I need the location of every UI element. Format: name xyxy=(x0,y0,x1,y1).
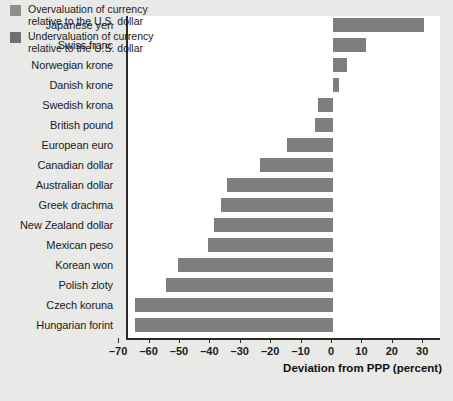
x-axis-tick xyxy=(301,338,302,343)
bar xyxy=(227,178,333,192)
bar xyxy=(221,198,333,212)
legend-label-line1: Undervaluation of currency xyxy=(28,31,153,43)
x-axis-tick-label: –40 xyxy=(194,345,224,357)
x-axis-tick-label: –70 xyxy=(103,345,133,357)
bar xyxy=(333,78,339,92)
legend-swatch-icon xyxy=(10,32,21,43)
legend-label: Overvaluation of currencyrelative to the… xyxy=(28,4,148,27)
legend-label-line1: Overvaluation of currency xyxy=(28,4,148,16)
category-label: Canadian dollar xyxy=(37,159,113,171)
x-axis-tick-label: 30 xyxy=(407,345,437,357)
x-axis-tick-label: –30 xyxy=(225,345,255,357)
category-label: Norwegian krone xyxy=(31,59,113,71)
x-axis-tick-label: 20 xyxy=(377,345,407,357)
x-axis-tick xyxy=(392,338,393,343)
category-label: Mexican peso xyxy=(46,239,113,251)
bar xyxy=(135,318,333,332)
bar xyxy=(178,258,333,272)
legend-item: Undervaluation of currencyrelative to th… xyxy=(10,31,200,54)
bars-container xyxy=(128,16,440,338)
category-label: New Zealand dollar xyxy=(20,219,113,231)
x-axis-tick-label: 10 xyxy=(346,345,376,357)
category-label: European euro xyxy=(42,139,113,151)
category-label: Greek drachma xyxy=(38,199,113,211)
category-label: Danish krone xyxy=(49,79,113,91)
chart-figure: Japanese yenSwiss francNorwegian kroneDa… xyxy=(0,0,453,401)
legend-label: Undervaluation of currencyrelative to th… xyxy=(28,31,153,54)
x-axis-line xyxy=(126,338,440,340)
bar xyxy=(135,298,333,312)
bar xyxy=(333,58,347,72)
bar xyxy=(260,158,333,172)
category-label: Swedish krona xyxy=(42,99,113,111)
category-label: Polish zloty xyxy=(59,279,113,291)
x-axis-tick xyxy=(361,338,362,343)
legend-label-line2: relative to the U.S. dollar xyxy=(28,43,153,55)
x-axis-tick-label: 0 xyxy=(316,345,346,357)
bar xyxy=(333,18,424,32)
x-axis-tick xyxy=(331,338,332,343)
x-axis-tick-label: –50 xyxy=(164,345,194,357)
category-label: Australian dollar xyxy=(36,179,113,191)
x-axis-tick-label: –60 xyxy=(134,345,164,357)
x-axis-title: Deviation from PPP (percent) xyxy=(283,362,442,374)
category-label: Czech koruna xyxy=(46,299,113,311)
category-label: Korean won xyxy=(55,259,113,271)
bar xyxy=(318,98,333,112)
x-axis-tick xyxy=(270,338,271,343)
category-label: British pound xyxy=(50,119,113,131)
legend-swatch-icon xyxy=(10,5,21,16)
bar xyxy=(315,118,333,132)
bar xyxy=(166,278,333,292)
bar xyxy=(287,138,333,152)
bar xyxy=(333,38,366,52)
x-axis-tick-label: –20 xyxy=(255,345,285,357)
x-axis-tick xyxy=(118,338,119,343)
x-axis-tick xyxy=(240,338,241,343)
category-axis-labels: Japanese yenSwiss francNorwegian kroneDa… xyxy=(0,17,119,338)
bar xyxy=(208,238,333,252)
plot-area xyxy=(126,16,440,338)
x-axis-tick xyxy=(422,338,423,343)
legend-item: Overvaluation of currencyrelative to the… xyxy=(10,4,200,27)
legend-label-line2: relative to the U.S. dollar xyxy=(28,16,148,28)
chart-legend: Overvaluation of currencyrelative to the… xyxy=(10,4,200,58)
bar xyxy=(214,218,333,232)
x-axis-tick xyxy=(209,338,210,343)
x-axis-tick xyxy=(149,338,150,343)
x-axis-tick-label: –10 xyxy=(286,345,316,357)
category-label: Hungarian forint xyxy=(36,319,113,331)
x-axis-tick xyxy=(179,338,180,343)
